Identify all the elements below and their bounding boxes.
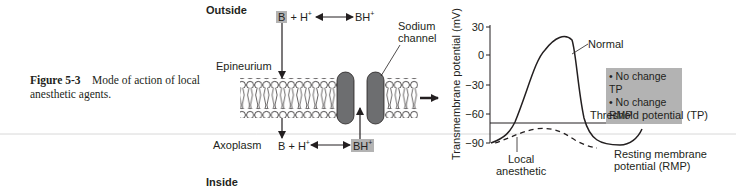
y-axis-label: Transmembrane potential (mV) xyxy=(450,8,462,160)
normal-label: Normal xyxy=(588,38,623,50)
sodium-channel-label: Sodium channel xyxy=(398,20,437,44)
outside-equilibrium: B + H+ xyxy=(276,10,312,23)
outside-bh: BH+ xyxy=(355,10,374,23)
ytick-30: 30 xyxy=(472,21,484,33)
local-anesthetic-label: Local anesthetic xyxy=(496,153,546,177)
ytick-minus30: −30 xyxy=(465,79,484,91)
inside-bh: BH+ xyxy=(351,139,374,152)
epineurium-label: Epineurium xyxy=(216,60,272,72)
rmp-label: Resting membrane potential (RMP) xyxy=(614,148,707,172)
axoplasm-label: Axoplasm xyxy=(213,139,261,151)
local-anesthetic-curve xyxy=(495,128,597,148)
ytick-minus90: −90 xyxy=(465,137,484,149)
inside-label: Inside xyxy=(206,176,238,188)
threshold-label: Threshold potential (TP) xyxy=(590,109,708,121)
lipid-bilayer xyxy=(240,78,418,118)
ytick-0: 0 xyxy=(478,49,484,61)
ytick-minus60: −60 xyxy=(465,108,484,120)
chart-axis xyxy=(486,25,490,143)
inside-equilibrium: B + H+ xyxy=(278,139,310,152)
outside-label: Outside xyxy=(206,4,247,16)
